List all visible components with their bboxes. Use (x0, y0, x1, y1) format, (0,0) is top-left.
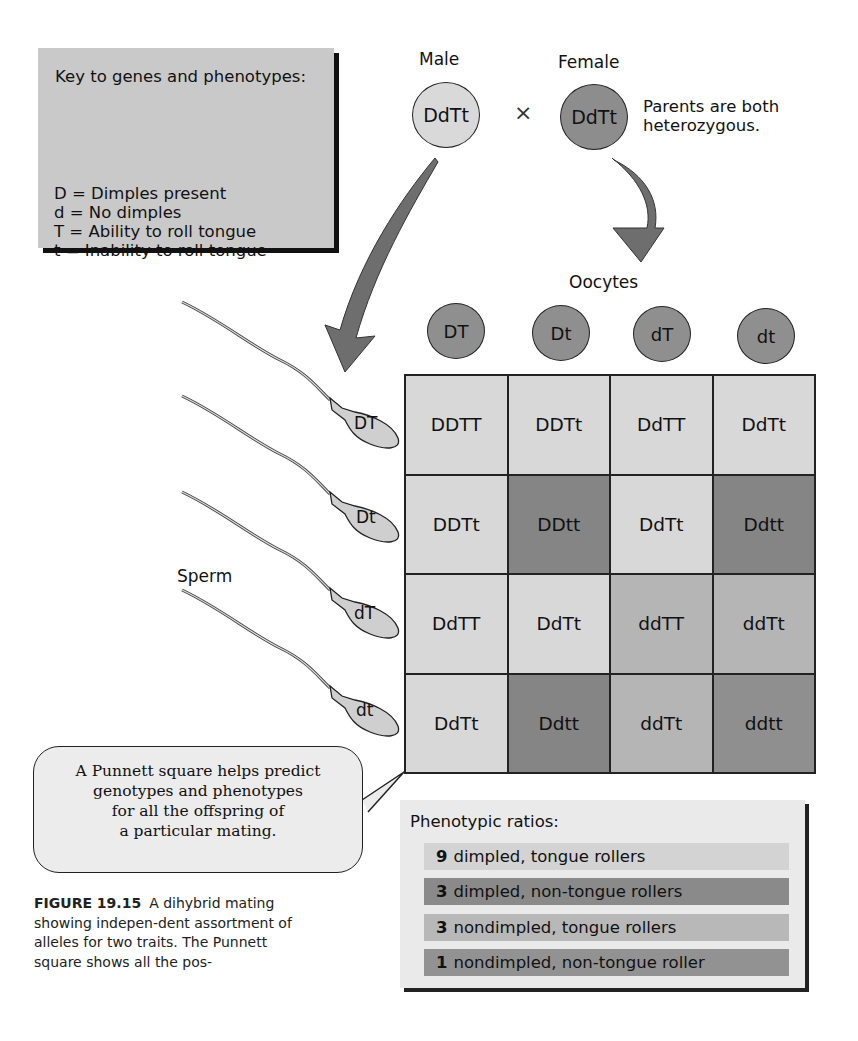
oocyte-circle: DT (427, 303, 485, 359)
oocyte-gamete: dT (651, 324, 673, 345)
punnett-cell: DdTT (405, 574, 508, 674)
callout-line: a particular mating. (34, 821, 362, 841)
ratio-count: 1 (436, 953, 447, 972)
punnett-cell: ddTT (610, 574, 713, 674)
ratio-count: 3 (436, 882, 447, 901)
ratio-row: 9 dimpled, tongue rollers (424, 843, 789, 870)
sperm-gamete: DT (354, 413, 377, 433)
ratio-count: 9 (436, 847, 447, 866)
punnett-cell: Ddtt (508, 674, 611, 774)
punnett-cell: DDTt (508, 375, 611, 475)
punnett-cell: DdTt (405, 674, 508, 774)
callout-pointer-icon (362, 772, 404, 812)
punnett-cell: DdTT (610, 375, 713, 475)
oocyte-gamete: DT (444, 321, 469, 342)
punnett-cell: DdTt (508, 574, 611, 674)
ratio-row: 3 nondimpled, tongue rollers (424, 914, 789, 941)
punnett-callout: A Punnett square helps predict genotypes… (33, 746, 363, 873)
punnett-cell: DdTt (610, 475, 713, 575)
ratio-text: dimpled, tongue rollers (453, 847, 645, 866)
figure-caption: FIGURE 19.15A dihybrid mating showing in… (34, 894, 294, 972)
oocytes-label: Oocytes (569, 272, 638, 292)
punnett-cell: Ddtt (713, 475, 816, 575)
oocyte-circle: Dt (532, 305, 590, 361)
oocyte-gamete: dt (757, 326, 775, 347)
callout-line: genotypes and phenotypes (34, 781, 362, 801)
phenotypic-ratios-box: Phenotypic ratios: 9 dimpled, tongue rol… (400, 800, 805, 988)
sperm-label: Sperm (177, 566, 232, 586)
punnett-cell: DDTt (405, 475, 508, 575)
phenotypic-ratios-title: Phenotypic ratios: (410, 812, 559, 831)
figure-number: FIGURE 19.15 (34, 895, 141, 911)
punnett-cell: ddTt (713, 574, 816, 674)
ratio-row: 1 nondimpled, non-tongue roller (424, 949, 789, 976)
callout-line: A Punnett square helps predict (34, 761, 362, 781)
female-to-oocyte-arrow-icon (612, 158, 664, 262)
punnett-cell: DDtt (508, 475, 611, 575)
punnett-cell: ddtt (713, 674, 816, 774)
punnett-cell: DDTT (405, 375, 508, 475)
ratio-text: nondimpled, non-tongue roller (453, 953, 704, 972)
oocyte-circle: dt (737, 308, 795, 364)
punnett-cell: DdTt (713, 375, 816, 475)
ratio-count: 3 (436, 918, 447, 937)
punnett-cell: ddTt (610, 674, 713, 774)
sperm-gamete: Dt (356, 507, 376, 527)
callout-line: for all the offspring of (34, 801, 362, 821)
oocyte-gamete: Dt (551, 323, 572, 344)
ratio-row: 3 dimpled, non-tongue rollers (424, 878, 789, 905)
sperm-gamete: dT (354, 603, 375, 623)
ratio-text: dimpled, non-tongue rollers (453, 882, 682, 901)
ratio-text: nondimpled, tongue rollers (453, 918, 676, 937)
sperm-gamete: dt (356, 700, 373, 720)
oocyte-circle: dT (633, 306, 691, 362)
punnett-square: DDTT DDTt DdTT DdTt DDTt DDtt DdTt Ddtt … (404, 374, 816, 774)
